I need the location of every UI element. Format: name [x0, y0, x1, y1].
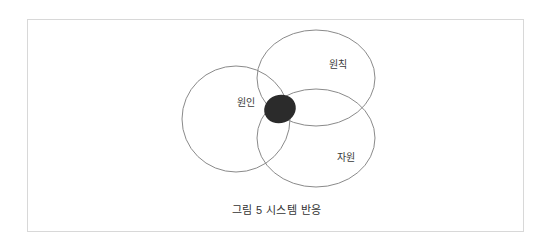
figure-root: 원인 원칙 자원 그림 5 시스템 반응: [0, 0, 553, 251]
figure-frame: 원인 원칙 자원 그림 5 시스템 반응: [27, 19, 524, 232]
venn-label-cause: 원인: [237, 94, 256, 109]
venn-label-principle: 원칙: [329, 56, 348, 71]
venn-core-intersection: [260, 90, 300, 127]
figure-caption: 그림 5 시스템 반응: [28, 201, 525, 217]
venn-label-resource: 자원: [337, 149, 356, 164]
